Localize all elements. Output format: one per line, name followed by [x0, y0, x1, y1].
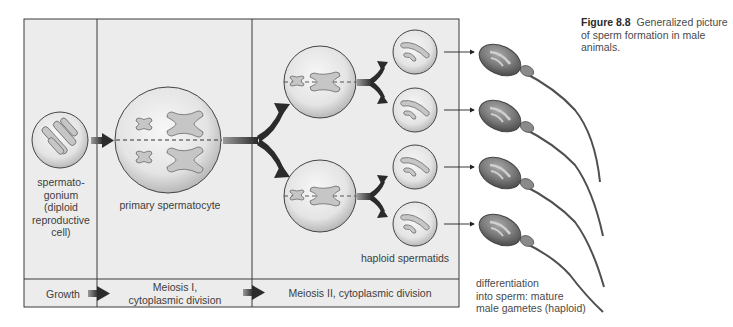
spermatogonium-label: spermato- gonium (diploid reproductive c…	[28, 176, 94, 239]
label-line: cell)	[28, 226, 94, 239]
spermatid-4	[393, 202, 437, 246]
label-line: (diploid	[28, 201, 94, 214]
spermatogonium-cell	[32, 112, 88, 168]
secondary-spermatocyte-top	[284, 46, 356, 118]
label-line: into sperm: mature	[476, 290, 606, 303]
spermatid-1	[393, 30, 437, 74]
secondary-spermatocyte-bottom	[284, 160, 356, 232]
phase-meiosis2-label: Meiosis II, cytoplasmic division	[270, 287, 450, 300]
haploid-spermatids-label: haploid spermatids	[355, 252, 455, 265]
phase-growth-label: Growth	[38, 288, 88, 301]
label-line: reproductive	[28, 214, 94, 227]
label-line: differentiation	[476, 277, 606, 290]
figure-number: Figure 8.8	[581, 16, 631, 28]
sperm-differentiation-label: differentiation into sperm: mature male …	[476, 277, 606, 315]
label-line: cytoplasmic division	[120, 294, 230, 307]
label-line: gonium	[28, 189, 94, 202]
sperm-cells	[474, 38, 604, 312]
spermatid-3	[393, 145, 437, 189]
primary-spermatocyte-cell	[115, 87, 222, 193]
label-line: male gametes (haploid)	[476, 302, 606, 315]
label-line: spermato-	[28, 176, 94, 189]
label-line: Meiosis I,	[120, 281, 230, 294]
spermatid-2	[393, 88, 437, 132]
figure-caption: Figure 8.8Generalized picture of sperm f…	[581, 16, 731, 54]
phase-meiosis1-label: Meiosis I, cytoplasmic division	[120, 281, 230, 306]
primary-spermatocyte-label: primary spermatocyte	[110, 199, 230, 212]
